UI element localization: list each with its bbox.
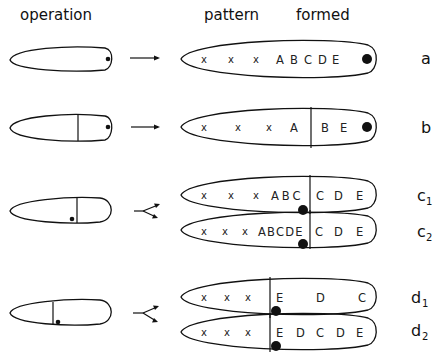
arrowhead-b <box>154 125 160 130</box>
token: A <box>276 53 284 67</box>
row-a: x x x A B C D E a <box>10 40 431 77</box>
row-label-b: b <box>421 118 431 137</box>
token: x <box>224 327 230 338</box>
token: D <box>334 189 343 203</box>
token: A <box>290 121 298 135</box>
diagram-canvas: operation pattern formed x x x A B C D E… <box>0 0 438 359</box>
header-formed: formed <box>296 6 350 24</box>
graft-dot-pattern-c1 <box>298 205 308 215</box>
token: ABCDE <box>258 225 304 239</box>
token: x <box>228 190 234 201</box>
row-label-c: c <box>417 186 426 205</box>
token: x <box>242 226 248 237</box>
token: x <box>253 190 259 201</box>
graft-dot-pattern-c2 <box>298 239 308 249</box>
token: D <box>336 326 345 340</box>
token: x <box>224 292 230 303</box>
row-label-c1-subscript: 1 <box>426 196 432 207</box>
token: x <box>222 226 228 237</box>
token: E <box>356 225 363 239</box>
token: E <box>356 326 363 340</box>
token: E <box>356 189 363 203</box>
token: x <box>228 54 234 65</box>
token: C <box>316 189 324 203</box>
row-b: x x x A B E b <box>10 107 431 148</box>
operation-embryo-b <box>10 115 112 142</box>
graft-dot-d <box>56 320 61 325</box>
token: B <box>290 53 298 67</box>
row-label-d1-subscript: 1 <box>422 298 428 309</box>
token: x <box>235 122 241 133</box>
token: ABC <box>271 189 304 203</box>
row-label-c2: c <box>417 222 426 241</box>
token: C <box>304 53 312 67</box>
token: D <box>296 326 305 340</box>
header-operation: operation <box>20 6 92 24</box>
token: D <box>316 291 325 305</box>
token: x <box>201 226 207 237</box>
row-label-a: a <box>421 49 431 68</box>
operation-embryo-c <box>10 198 111 224</box>
arrowhead-c2 <box>152 214 158 219</box>
row-label-d2: d <box>411 321 421 340</box>
header-pattern: pattern <box>204 6 259 24</box>
arrowhead-a <box>154 56 160 61</box>
graft-dot-pattern-d2 <box>271 341 281 351</box>
token: x <box>201 292 207 303</box>
graft-dot-b <box>106 125 111 130</box>
row-c: x x x ABC C D E c 1 x x x ABCDE C D E c … <box>10 175 432 249</box>
token: E <box>276 326 283 340</box>
token: D <box>318 53 327 67</box>
token: D <box>334 225 343 239</box>
token: x <box>201 122 207 133</box>
row-label-d1: d <box>411 288 421 307</box>
graft-dot-pattern-b <box>362 122 372 132</box>
operation-embryo-a <box>10 47 112 71</box>
token: C <box>315 225 323 239</box>
token: E <box>340 121 347 135</box>
operation-embryo-d <box>10 300 111 326</box>
token: E <box>276 291 283 305</box>
token: C <box>358 291 366 305</box>
token: x <box>201 327 207 338</box>
row-label-c2-subscript: 2 <box>426 232 432 243</box>
token: B <box>321 121 329 135</box>
token: x <box>253 54 259 65</box>
graft-dot-c <box>70 217 75 222</box>
row-label-d2-subscript: 2 <box>422 331 428 342</box>
token: x <box>245 327 251 338</box>
token: x <box>201 190 207 201</box>
token: E <box>332 53 339 67</box>
row-d: x x x E D C d 1 x x x E D C D E d 2 <box>10 277 428 352</box>
graft-dot-pattern-a <box>362 54 372 64</box>
token: x <box>201 54 207 65</box>
token: x <box>245 292 251 303</box>
graft-dot-a <box>106 57 111 62</box>
token: C <box>316 326 324 340</box>
token: x <box>266 122 272 133</box>
